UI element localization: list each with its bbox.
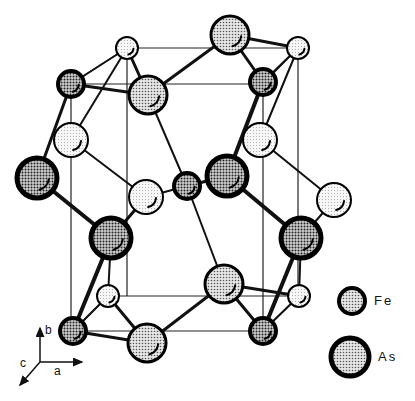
axis-c-label: c [20,356,28,370]
as-atom [317,183,351,217]
as-atom [128,324,166,362]
axis-a-label: a [54,364,63,378]
as-atom [211,16,249,54]
axis-b-label: b [45,323,54,337]
structure-canvas [0,0,415,401]
crystal-structure-diagram: Fe As b a c [0,0,415,401]
as-atom [281,218,321,258]
legend-fe-label: Fe [374,293,393,308]
fe-atom [174,173,200,199]
legend-atoms [331,288,369,376]
fe-atom [58,71,84,97]
fe-atom [60,318,86,344]
as-atom [129,76,167,114]
legend-as-atom [331,338,369,376]
as-atom [243,123,277,157]
as-atom [54,123,88,157]
legend-as-label: As [378,349,397,364]
fe-atom [250,318,276,344]
as-atom [129,180,163,214]
fe-atom [116,37,138,59]
fe-atom [287,37,309,59]
as-atom [17,158,57,198]
as-atom [207,156,247,196]
as-atom [205,265,243,303]
as-atom [91,218,131,258]
fe-atom [250,69,276,95]
fe-atom [288,285,310,307]
fe-atom [97,285,119,307]
legend-fe-atom [339,288,365,314]
